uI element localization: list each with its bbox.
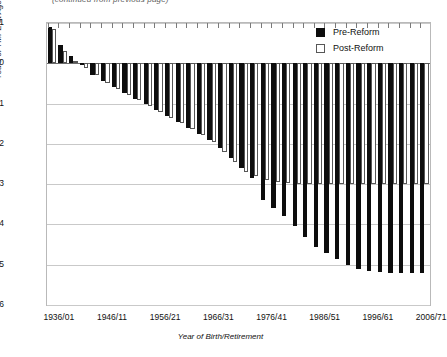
legend-swatch-post-reform-icon xyxy=(316,44,325,53)
x-tick-label-1966-31: 1966/31 xyxy=(203,312,234,322)
bar-post-reform-2002-67 xyxy=(403,63,407,184)
y-tick-label--5: -5 xyxy=(0,259,4,269)
x-tick-label-2006-71: 2006/71 xyxy=(416,312,447,322)
x-axis-title: Year of Birth/Retirement xyxy=(0,332,441,341)
bar-post-reform-1954-19 xyxy=(148,63,152,105)
bar-post-reform-1982-47 xyxy=(297,63,301,184)
bar-post-reform-2000-65 xyxy=(393,63,397,184)
gridline--6 xyxy=(47,305,430,306)
x-tick-label-1976-41: 1976/41 xyxy=(256,312,287,322)
x-tick-mark xyxy=(101,23,102,28)
bar-post-reform-1968-33 xyxy=(222,63,226,152)
bar-post-reform-1972-37 xyxy=(244,63,248,172)
x-tick-mark xyxy=(176,23,177,28)
x-tick-mark xyxy=(58,23,59,28)
x-tick-mark xyxy=(314,23,315,28)
x-tick-mark xyxy=(80,23,81,28)
x-tick-label-1956-21: 1956/21 xyxy=(150,312,181,322)
x-tick-mark xyxy=(112,23,113,28)
x-tick-mark xyxy=(207,23,208,28)
x-tick-mark xyxy=(197,23,198,28)
x-tick-mark xyxy=(186,23,187,28)
bar-post-reform-1948-13 xyxy=(116,63,120,88)
y-axis-title: Years of YMPE at Age 65 xyxy=(0,0,3,104)
x-tick-mark xyxy=(48,23,49,28)
chart-subtitle: (continued from previous page) xyxy=(52,0,169,4)
x-tick-label-1936-01: 1936/01 xyxy=(43,312,74,322)
x-tick-mark xyxy=(133,23,134,28)
bar-post-reform-1990-55 xyxy=(339,63,343,184)
x-tick-label-1996-61: 1996/61 xyxy=(363,312,394,322)
bar-post-reform-1952-17 xyxy=(137,63,141,100)
y-tick-label--6: -6 xyxy=(0,299,4,309)
bar-post-reform-1988-53 xyxy=(329,63,333,184)
gridline--3 xyxy=(47,184,430,185)
y-tick-label--3: -3 xyxy=(0,178,4,188)
x-tick-mark xyxy=(388,23,389,28)
bar-post-reform-1960-25 xyxy=(180,63,184,123)
bar-post-reform-1962-27 xyxy=(190,63,194,128)
bar-post-reform-1936-01 xyxy=(52,29,56,63)
x-tick-mark xyxy=(165,23,166,28)
bar-post-reform-2004-69 xyxy=(414,63,418,184)
gridline--4 xyxy=(47,224,430,225)
bar-post-reform-1958-23 xyxy=(169,63,173,117)
legend-label-post-reform: Post-Reform xyxy=(333,43,384,53)
bar-post-reform-1984-49 xyxy=(307,63,311,184)
x-tick-mark xyxy=(90,23,91,28)
bar-post-reform-1976-41 xyxy=(265,63,269,180)
bar-post-reform-1944-09 xyxy=(95,63,99,75)
x-tick-mark xyxy=(229,23,230,28)
bar-post-reform-1996-61 xyxy=(371,63,375,184)
bar-post-reform-1998-63 xyxy=(382,63,386,184)
legend-item-post-reform: Post-Reform xyxy=(316,43,384,53)
legend-swatch-pre-reform-icon xyxy=(316,28,325,37)
y-tick-label--2: -2 xyxy=(0,138,4,148)
chart-plot-area xyxy=(46,22,431,306)
x-tick-mark xyxy=(399,23,400,28)
x-tick-mark xyxy=(410,23,411,28)
bar-post-reform-1980-45 xyxy=(286,63,290,183)
bar-post-reform-1940-05 xyxy=(73,61,77,63)
legend-item-pre-reform: Pre-Reform xyxy=(316,27,384,37)
x-tick-mark xyxy=(420,23,421,28)
bar-post-reform-1992-57 xyxy=(350,63,354,184)
chart-legend: Pre-Reform Post-Reform xyxy=(316,27,384,59)
x-tick-mark xyxy=(154,23,155,28)
x-tick-mark xyxy=(303,23,304,28)
x-tick-mark xyxy=(218,23,219,28)
bar-post-reform-2006-71 xyxy=(424,63,428,184)
y-tick-label--4: -4 xyxy=(0,218,4,228)
x-tick-mark xyxy=(271,23,272,28)
legend-label-pre-reform: Pre-Reform xyxy=(333,27,380,37)
bar-post-reform-1938-03 xyxy=(63,51,67,63)
x-tick-mark xyxy=(122,23,123,28)
bar-post-reform-1974-39 xyxy=(254,63,258,176)
bar-post-reform-1964-29 xyxy=(201,63,205,135)
bar-post-reform-1994-59 xyxy=(361,63,365,184)
bar-post-reform-1950-15 xyxy=(127,63,131,94)
x-tick-label-1986-51: 1986/51 xyxy=(309,312,340,322)
bar-post-reform-1942-07 xyxy=(84,63,88,68)
gridline--5 xyxy=(47,265,430,266)
bar-post-reform-1970-35 xyxy=(233,63,237,162)
bar-post-reform-1986-51 xyxy=(318,63,322,184)
x-tick-mark xyxy=(293,23,294,28)
bar-post-reform-1978-43 xyxy=(276,63,280,182)
x-tick-label-1946-11: 1946/11 xyxy=(97,312,127,322)
bar-post-reform-1956-21 xyxy=(158,63,162,111)
x-tick-mark xyxy=(69,23,70,28)
x-tick-mark xyxy=(144,23,145,28)
x-tick-mark xyxy=(250,23,251,28)
x-tick-mark xyxy=(282,23,283,28)
bar-post-reform-1966-31 xyxy=(212,63,216,142)
bar-post-reform-1946-11 xyxy=(105,63,109,82)
x-tick-mark xyxy=(239,23,240,28)
x-tick-mark xyxy=(261,23,262,28)
